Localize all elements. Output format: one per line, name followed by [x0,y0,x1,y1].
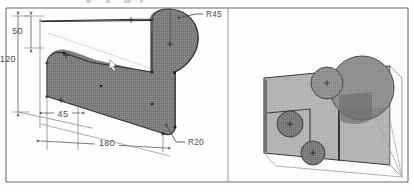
radius-R20-label: R20 [188,138,204,147]
dimension-180-label: 180 [99,138,115,148]
dimension-45-label: 45 [58,109,69,119]
drawing-canvas: 50 120 45 180 [0,0,414,192]
radius-R45-label: R45 [206,10,222,19]
dimension-120-label: 120 [0,54,16,64]
dimension-50-label: 50 [12,26,23,36]
technical-drawing-svg: 50 120 45 180 [0,0,414,192]
